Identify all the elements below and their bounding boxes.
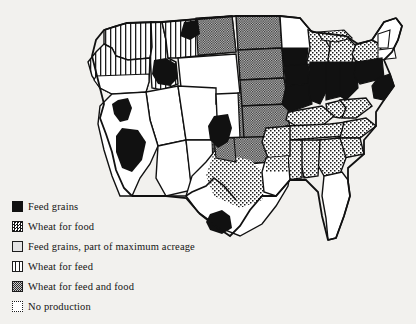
legend-label-feed-grains-max-acreage: Feed grains, part of maximum acreage [28, 241, 195, 252]
region-missouri [282, 84, 312, 112]
region-north-dakota [236, 16, 282, 50]
region-arkansas [262, 126, 290, 158]
legend-label-wheat-for-feed: Wheat for feed [28, 261, 93, 272]
region-montana-east-checker [196, 16, 236, 55]
legend-label-wheat-for-food: Wheat for food [28, 221, 94, 232]
legend-item-wheat-for-food: Wheat for food [12, 216, 262, 236]
legend-item-wheat-for-feed: Wheat for feed [12, 256, 262, 276]
region-alabama [300, 140, 320, 178]
legend-label-no-production: No production [28, 301, 91, 312]
legend-label-feed-grains: Feed grains [28, 201, 78, 212]
region-minnesota-south-feed [282, 48, 308, 66]
region-nebraska [240, 78, 288, 106]
region-south-dakota [238, 48, 284, 80]
map-legend: Feed grains Wheat for food Feed grains, … [12, 196, 262, 316]
region-oregon-south-white [94, 74, 149, 94]
map-figure: Feed grains Wheat for food Feed grains, … [0, 0, 416, 324]
legend-item-no-production: No production [12, 296, 262, 316]
region-iowa [284, 64, 310, 86]
legend-item-feed-grains-max-acreage: Feed grains, part of maximum acreage [12, 236, 262, 256]
legend-item-feed-grains: Feed grains [12, 196, 262, 216]
legend-swatch-wheat-for-feed [12, 261, 23, 272]
legend-swatch-no-production [12, 301, 23, 312]
region-north-carolina [340, 118, 376, 138]
region-illinois [308, 62, 328, 104]
legend-swatch-feed-grains [12, 201, 23, 212]
legend-item-wheat-for-feed-and-food: Wheat for feed and food [12, 276, 262, 296]
legend-swatch-wheat-for-feed-and-food [12, 281, 23, 292]
legend-swatch-feed-grains-max-acreage [12, 241, 23, 252]
region-louisiana-north-dot [266, 156, 288, 172]
legend-swatch-wheat-for-food [12, 221, 23, 232]
legend-label-wheat-for-feed-and-food: Wheat for feed and food [28, 281, 134, 292]
